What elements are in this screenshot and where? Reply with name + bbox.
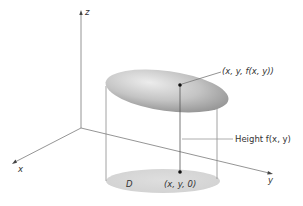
region-d: [106, 169, 220, 193]
region-label: D: [126, 180, 133, 189]
top-point: [178, 83, 182, 87]
height-label: Height f(x, y): [235, 135, 291, 144]
x-axis: [15, 128, 81, 162]
base-point-label: (x, y, 0): [164, 180, 196, 189]
base-point: [178, 170, 182, 174]
surface-diagram: z x y (x, y, f(x, y)) Height f(x, y) D (…: [0, 0, 303, 206]
y-axis-label: y: [268, 176, 273, 185]
diagram-canvas: [0, 0, 303, 206]
x-axis-arrow-icon: [12, 160, 17, 165]
surface-f: [103, 63, 231, 120]
x-axis-label: x: [18, 165, 23, 174]
top-point-label: (x, y, f(x, y)): [222, 67, 274, 76]
z-axis-label: z: [85, 8, 89, 17]
z-axis-arrow-icon: [79, 10, 82, 15]
